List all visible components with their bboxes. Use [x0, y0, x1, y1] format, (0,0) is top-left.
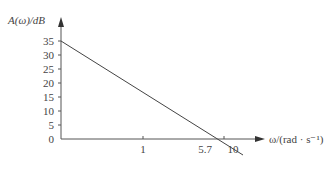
x-tick-labels: 1 5.7 10	[140, 143, 239, 155]
svg-text:25: 25	[43, 63, 55, 75]
x-axis-arrow-icon	[255, 136, 265, 142]
svg-text:30: 30	[43, 49, 55, 61]
y-axis-arrow-icon	[58, 17, 64, 27]
x-axis-label: ω/(rad · s⁻¹)	[269, 133, 324, 146]
svg-text:0: 0	[49, 133, 55, 145]
svg-text:15: 15	[43, 91, 55, 103]
svg-text:1: 1	[140, 143, 146, 155]
svg-text:35: 35	[43, 35, 55, 47]
magnitude-line	[61, 41, 243, 155]
svg-text:20: 20	[43, 77, 55, 89]
svg-text:5: 5	[49, 119, 55, 131]
bode-magnitude-chart: 0 5 10 15 20 25 30 35 1 5.7 10 A(ω)/dB ω…	[0, 0, 330, 169]
y-axis-label: A(ω)/dB	[7, 14, 45, 27]
svg-text:5.7: 5.7	[198, 143, 212, 155]
svg-text:10: 10	[43, 105, 55, 117]
y-tick-labels: 0 5 10 15 20 25 30 35	[43, 35, 55, 145]
